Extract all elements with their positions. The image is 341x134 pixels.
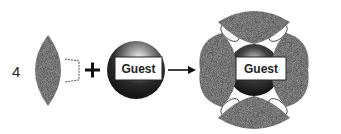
assembled-capsule: Guest [199,11,308,129]
assembly-diagram: 4 Guest Gues [0,0,341,134]
plus-icon [85,63,100,78]
arrow-right-icon [168,66,196,74]
result-guest-label: Guest [244,62,278,76]
guest-sphere: Guest [107,41,165,99]
quantity-label: 4 [12,63,20,80]
lens-subunit-icon [35,35,79,106]
lens-left [199,33,236,107]
guest-label: Guest [121,62,155,76]
